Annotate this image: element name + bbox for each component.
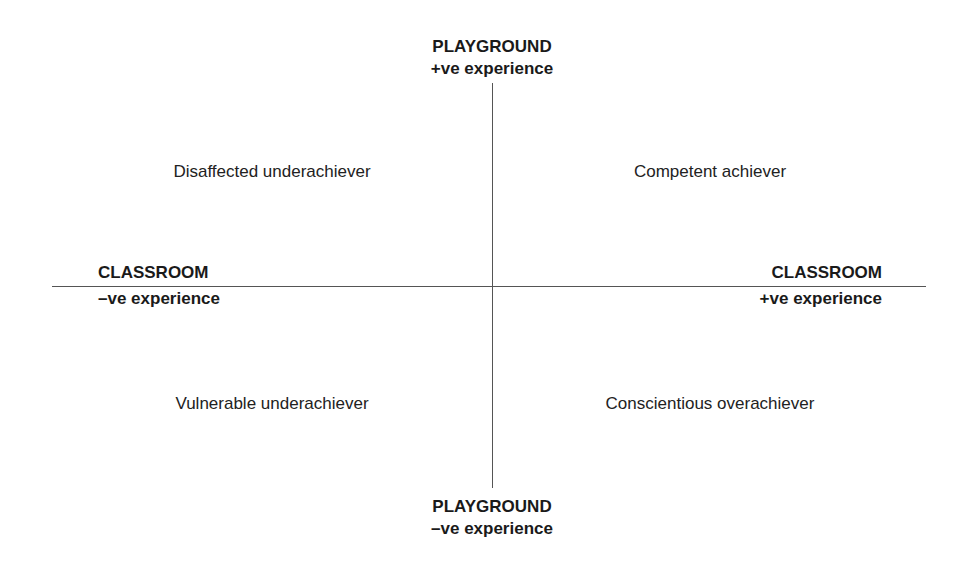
top-axis-label: PLAYGROUND +ve experience (431, 36, 553, 80)
bottom-axis-label: PLAYGROUND –ve experience (431, 496, 553, 540)
quadrant-top-right: Competent achiever (634, 161, 786, 183)
left-axis-label: CLASSROOM –ve experience (98, 262, 220, 310)
left-axis-title: CLASSROOM (98, 262, 220, 284)
right-axis-subtitle: +ve experience (760, 288, 882, 310)
top-axis-subtitle: +ve experience (431, 58, 553, 80)
quadrant-bottom-left: Vulnerable underachiever (175, 393, 368, 415)
bottom-axis-title: PLAYGROUND (431, 496, 553, 518)
right-axis-label: CLASSROOM +ve experience (760, 262, 882, 310)
quadrant-bottom-right: Conscientious overachiever (606, 393, 815, 415)
right-axis-title: CLASSROOM (760, 262, 882, 284)
left-axis-subtitle: –ve experience (98, 288, 220, 310)
top-axis-title: PLAYGROUND (431, 36, 553, 58)
quadrant-top-left: Disaffected underachiever (173, 161, 370, 183)
bottom-axis-subtitle: –ve experience (431, 518, 553, 540)
